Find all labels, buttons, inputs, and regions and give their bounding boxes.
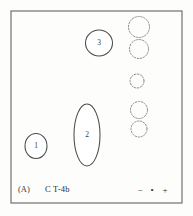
spot-label-1: 1 [34,141,38,150]
polarity-origin-marker: • [150,185,153,195]
reference-spot-1 [129,17,150,38]
figure-panel: 123 (A) C T-4b − • + [0,0,193,216]
sample-label: C T-4b [45,184,70,194]
reference-spot-2 [130,40,149,59]
panel-label: (A) [18,184,30,194]
labeled-spot-group: 123 [25,30,113,166]
reference-spot-group [129,17,150,138]
spot-label-2: 2 [85,130,89,139]
reference-spot-4 [131,102,148,119]
reference-spot-3 [130,74,144,88]
polarity-negative-marker: − [137,185,142,195]
spot-label-3: 3 [97,38,101,47]
reference-spot-5 [131,121,147,137]
figure-canvas: 123 (A) C T-4b − • + [0,0,193,216]
polarity-positive-marker: + [162,185,167,195]
